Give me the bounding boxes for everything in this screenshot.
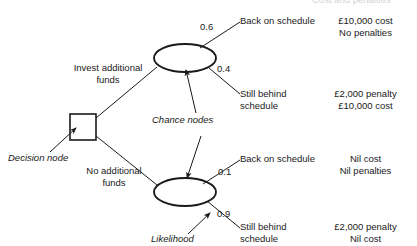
outcome-line1: Back on schedule xyxy=(240,15,315,27)
annotation-arrow-chance-node-upper xyxy=(186,70,196,113)
header-cost-and-penalties: Cost and penalties xyxy=(312,0,391,6)
result-text-4: £2,000 penalty Nil cost xyxy=(318,221,413,244)
result-text-1: £10,000 cost No penalties xyxy=(318,15,413,38)
result-text-3: Nil cost Nil penalties xyxy=(318,153,413,176)
branch-label-line2: funds xyxy=(62,177,166,189)
result-line2: £10,000 cost xyxy=(318,100,413,112)
result-line1: Nil cost xyxy=(318,153,413,165)
result-text-2: £2,000 penalty £10,000 cost xyxy=(318,88,413,111)
probability-0.6: 0.6 xyxy=(200,21,213,33)
probability-0.9: 0.9 xyxy=(217,208,230,220)
branch-label-line1: Invest additional xyxy=(56,62,160,74)
result-line2: Nil penalties xyxy=(318,165,413,177)
probability-0.4: 0.4 xyxy=(217,63,230,75)
outcome-line1: Still behind xyxy=(240,88,286,100)
outcome-text-1: Back on schedule xyxy=(240,15,315,27)
branch-label-invest-additional-funds: Invest additional funds xyxy=(56,62,160,85)
probability-0.1: 0.1 xyxy=(218,166,231,178)
result-line1: £10,000 cost xyxy=(318,15,413,27)
outcome-text-2: Still behind schedule xyxy=(240,88,286,111)
outcome-text-4: Still behind schedule xyxy=(240,221,286,244)
label-likelihood: Likelihood xyxy=(151,233,194,245)
outcome-text-3: Back on schedule xyxy=(240,153,315,165)
outcome-line1: Still behind xyxy=(240,221,286,233)
label-decision-node: Decision node xyxy=(8,152,68,164)
result-line2: No penalties xyxy=(318,27,413,39)
outcome-line2: schedule xyxy=(240,100,286,112)
branch-label-line1: No additional xyxy=(62,165,166,177)
result-line1: £2,000 penalty xyxy=(318,88,413,100)
result-line1: £2,000 penalty xyxy=(318,221,413,233)
outcome-line1: Back on schedule xyxy=(240,153,315,165)
decision-tree-diagram: Cost and penalties Invest additional fun… xyxy=(0,0,417,246)
outcome-line2: schedule xyxy=(240,233,286,245)
branch-label-no-additional-funds: No additional funds xyxy=(62,165,166,188)
branch-label-line2: funds xyxy=(56,74,160,86)
annotation-arrow-likelihood xyxy=(188,213,210,234)
chance-node-upper xyxy=(154,44,216,72)
annotation-arrow-chance-node-lower xyxy=(187,136,201,178)
label-chance-nodes: Chance nodes xyxy=(152,114,213,126)
result-line2: Nil cost xyxy=(318,233,413,245)
decision-node-square xyxy=(70,114,96,140)
